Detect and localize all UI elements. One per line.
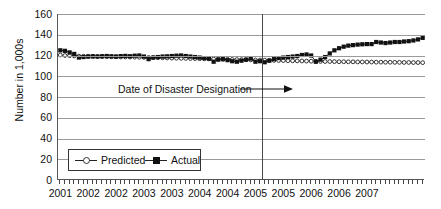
x-axis-tick	[273, 180, 274, 184]
gridline-60	[58, 118, 425, 119]
disaster-designation-line	[262, 14, 263, 180]
x-axis-tick	[175, 180, 176, 184]
x-axis-tick	[361, 180, 362, 184]
x-axis-tick	[278, 180, 279, 184]
gridline-160	[58, 14, 425, 15]
x-axis-tick	[162, 180, 163, 184]
gridline-140	[58, 35, 425, 36]
y-axis-tick-0: 0	[26, 175, 52, 186]
x-axis-tick	[380, 180, 381, 184]
y-axis-tick-100: 100	[26, 71, 52, 82]
y-axis-tick-140: 140	[26, 29, 52, 40]
x-axis-tick	[287, 180, 288, 184]
legend-label-predicted: Predicted	[101, 154, 145, 166]
x-axis-tick	[134, 180, 135, 184]
y-axis-tick-60: 60	[26, 112, 52, 123]
x-axis-tick	[329, 180, 330, 184]
gridline-120	[58, 56, 425, 57]
x-axis-tick	[417, 180, 418, 184]
x-axis-tick	[106, 180, 107, 184]
x-axis-tick	[143, 180, 144, 184]
y-axis-tick-labels: 020406080100120140160	[22, 0, 52, 209]
gridline-100	[58, 76, 425, 77]
x-axis-tick	[259, 180, 260, 184]
series-actual	[58, 36, 425, 65]
x-axis-tick	[394, 180, 395, 184]
x-axis-tick	[333, 180, 334, 184]
x-axis-tick	[254, 180, 255, 184]
x-axis-tick	[96, 180, 97, 184]
x-axis-tick	[343, 180, 344, 184]
x-axis-tick	[231, 180, 232, 184]
x-axis-tick	[236, 180, 237, 184]
x-axis-tick	[124, 180, 125, 184]
x-axis-tick	[217, 180, 218, 184]
x-axis-tick	[194, 180, 195, 184]
x-axis-tick	[412, 180, 413, 184]
x-axis-tick	[87, 180, 88, 184]
x-axis-tick	[268, 180, 269, 184]
chart-container: Number in 1,000s 020406080100120140160 2…	[0, 0, 441, 209]
x-axis-tick	[319, 180, 320, 184]
x-axis-tick	[189, 180, 190, 184]
y-axis-tick-160: 160	[26, 9, 52, 20]
x-axis-tick	[352, 180, 353, 184]
x-axis-tick	[389, 180, 390, 184]
x-axis-tick	[227, 180, 228, 184]
x-axis-tick	[375, 180, 376, 184]
x-axis-tick	[306, 180, 307, 184]
x-axis-tick	[264, 180, 265, 184]
x-axis-tick	[241, 180, 242, 184]
annotation-label: Date of Disaster Designation	[118, 83, 252, 95]
y-axis-tick-20: 20	[26, 154, 52, 165]
x-axis-tick	[110, 180, 111, 184]
x-axis-tick	[208, 180, 209, 184]
x-axis-tick	[199, 180, 200, 184]
x-axis-label-11: 2007	[347, 187, 387, 199]
x-axis-tick	[157, 180, 158, 184]
x-axis-tick	[152, 180, 153, 184]
x-axis-tick	[73, 180, 74, 184]
x-axis-ticks	[57, 180, 424, 186]
legend-label-actual: Actual	[171, 154, 200, 166]
x-axis-tick	[250, 180, 251, 184]
gridline-80	[58, 97, 425, 98]
x-axis-tick	[347, 180, 348, 184]
x-axis-tick	[338, 180, 339, 184]
x-axis-tick	[292, 180, 293, 184]
x-axis-tick	[83, 180, 84, 184]
y-axis-tick-120: 120	[26, 50, 52, 61]
gridline-40	[58, 139, 425, 140]
x-axis-tick-labels: 2001200220022003200320042004200520052006…	[0, 187, 441, 205]
x-axis-tick	[101, 180, 102, 184]
y-axis-tick-40: 40	[26, 133, 52, 144]
x-axis-tick	[185, 180, 186, 184]
legend-marker-predicted	[83, 157, 90, 164]
x-axis-tick	[115, 180, 116, 184]
x-axis-tick	[92, 180, 93, 184]
legend-marker-actual	[153, 157, 160, 164]
x-axis-tick	[120, 180, 121, 184]
x-axis-tick	[78, 180, 79, 184]
x-axis-tick	[222, 180, 223, 184]
x-axis-tick	[315, 180, 316, 184]
y-axis-tick-80: 80	[26, 92, 52, 103]
x-axis-tick	[166, 180, 167, 184]
x-axis-tick	[171, 180, 172, 184]
x-axis-tick	[213, 180, 214, 184]
x-axis-tick	[422, 180, 423, 184]
x-axis-tick	[324, 180, 325, 184]
x-axis-tick	[129, 180, 130, 184]
x-axis-tick	[203, 180, 204, 184]
x-axis-tick	[296, 180, 297, 184]
x-axis-tick	[301, 180, 302, 184]
x-axis-tick	[282, 180, 283, 184]
x-axis-tick	[148, 180, 149, 184]
x-axis-tick	[366, 180, 367, 184]
x-axis-tick	[59, 180, 60, 184]
x-axis-tick	[64, 180, 65, 184]
x-axis-tick	[357, 180, 358, 184]
x-axis-tick	[138, 180, 139, 184]
x-axis-tick	[245, 180, 246, 184]
x-axis-tick	[408, 180, 409, 184]
